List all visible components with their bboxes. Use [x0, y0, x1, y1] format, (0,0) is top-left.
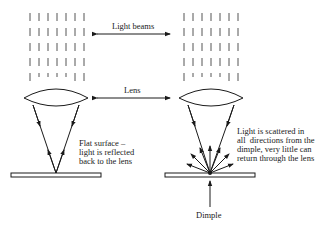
right-incoming-rays — [188, 105, 234, 173]
flat-surface — [11, 173, 101, 177]
scattered-label: Light is scattered in all directions fro… — [237, 127, 314, 163]
left-lens — [24, 89, 88, 106]
right-light-beams — [184, 13, 238, 81]
left-light-beams — [30, 13, 84, 81]
flat-surface-label: Flat surface – light is reflected back t… — [79, 139, 134, 166]
left-reflection-rays — [33, 105, 79, 173]
lens-label: Lens — [124, 86, 141, 95]
light-beams-label: Light beams — [112, 22, 154, 31]
dimple-label: Dimple — [196, 211, 222, 220]
right-lens — [179, 89, 243, 106]
scattered-rays — [187, 146, 233, 173]
dimple-dot — [208, 171, 212, 175]
diagram-canvas — [0, 0, 330, 231]
